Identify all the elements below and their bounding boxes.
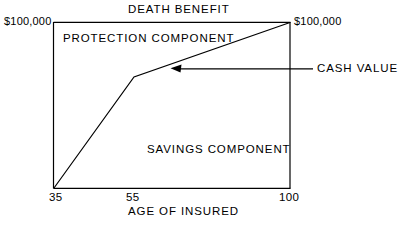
x-tick-label-35: 35 <box>49 192 62 204</box>
y-value-label-right: $100,000 <box>294 16 341 27</box>
cash-value-callout-leader <box>171 65 314 73</box>
x-axis-title: AGE OF INSURED <box>128 206 239 218</box>
plot-axes <box>54 22 291 189</box>
chart-title: DEATH BENEFIT <box>128 4 230 16</box>
savings-component-label: SAVINGS COMPONENT <box>147 144 291 156</box>
cash-value-callout-label: CASH VALUE <box>317 63 398 75</box>
callout-arrowhead-icon <box>171 65 182 73</box>
x-tick-label-55: 55 <box>126 192 139 204</box>
x-tick-label-100: 100 <box>279 192 299 204</box>
protection-component-label: PROTECTION COMPONENT <box>63 33 234 45</box>
y-value-label-left: $100,000 <box>4 16 51 27</box>
cash-value-line <box>54 23 290 189</box>
